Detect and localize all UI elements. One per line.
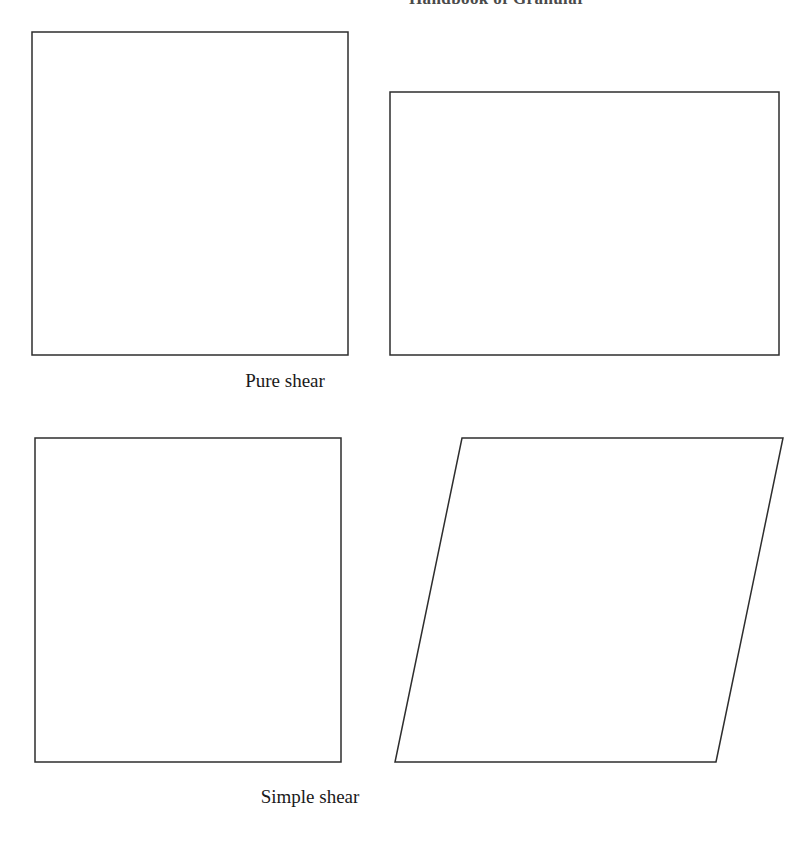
figure-page: Handbook of Granular Pure shear Simple s… [0, 0, 798, 843]
simple-shear-deformed-parallelogram [0, 0, 798, 843]
caption-simple-shear: Simple shear [0, 786, 620, 808]
simple-shear-parallelogram-outline [395, 438, 783, 762]
